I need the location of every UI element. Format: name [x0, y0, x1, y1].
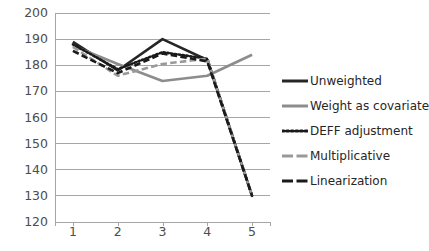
y-tick-label: 160: [0, 111, 48, 124]
y-tick-label: 170: [0, 85, 48, 98]
x-tick-mark: [252, 222, 253, 226]
series-line-multiplicative: [73, 47, 252, 196]
y-tick-label: 190: [0, 33, 48, 46]
legend-swatch-icon: [282, 175, 308, 187]
x-tick-label: 1: [69, 226, 77, 239]
y-tick-label: 150: [0, 137, 48, 150]
legend-swatch-icon: [282, 100, 308, 112]
chart-legend: UnweightedWeight as covariateDEFF adjust…: [282, 68, 414, 193]
x-axis-end-tick: [270, 222, 271, 226]
y-axis: 200190180170160150140130120: [0, 13, 48, 222]
x-axis: 12345: [55, 226, 270, 246]
legend-swatch-icon: [282, 150, 308, 162]
data-series-layer: [55, 13, 270, 222]
legend-item-linearization[interactable]: Linearization: [282, 168, 414, 193]
legend-item-label: Unweighted: [310, 75, 382, 87]
legend-item-label: Weight as covariate: [310, 100, 429, 112]
legend-item-multiplicative[interactable]: Multiplicative: [282, 143, 414, 168]
x-tick-label: 5: [248, 226, 256, 239]
legend-swatch-icon: [282, 125, 308, 137]
legend-item-label: DEFF adjustment: [310, 125, 413, 137]
legend-item-unweighted[interactable]: Unweighted: [282, 68, 414, 93]
x-tick-mark: [163, 222, 164, 226]
legend-item-label: Linearization: [310, 175, 387, 187]
series-line-linearization: [73, 51, 252, 196]
plot-area: [55, 13, 270, 222]
y-tick-label: 120: [0, 216, 48, 229]
y-tick-label: 140: [0, 164, 48, 177]
x-tick-mark: [207, 222, 208, 226]
x-tick-label: 4: [203, 226, 211, 239]
x-tick-mark: [118, 222, 119, 226]
x-axis-end-tick: [55, 222, 56, 226]
y-tick-label: 130: [0, 190, 48, 203]
x-tick-label: 2: [114, 226, 122, 239]
legend-item-weight-as-covariate[interactable]: Weight as covariate: [282, 93, 414, 118]
y-tick-label: 200: [0, 7, 48, 20]
x-tick-mark: [73, 222, 74, 226]
legend-item-deff-adjustment[interactable]: DEFF adjustment: [282, 118, 414, 143]
legend-swatch-icon: [282, 75, 308, 87]
x-tick-label: 3: [159, 226, 167, 239]
legend-item-label: Multiplicative: [310, 150, 390, 162]
y-tick-label: 180: [0, 59, 48, 72]
